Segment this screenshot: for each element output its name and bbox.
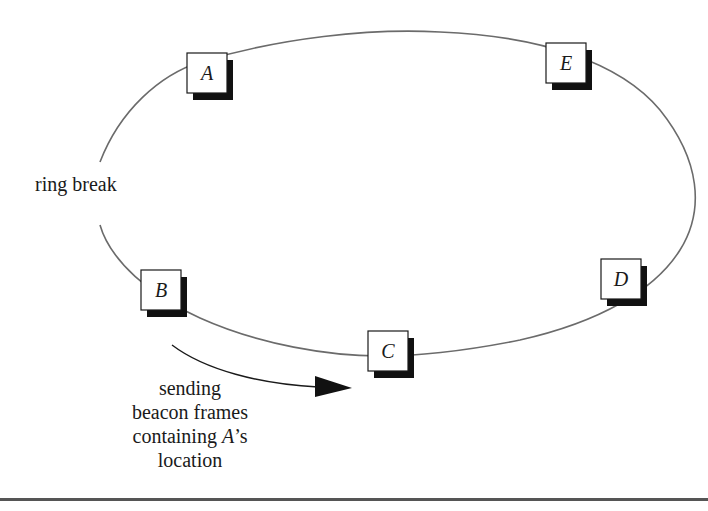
node-label: B [155, 279, 167, 301]
bottom-rule-divider [0, 498, 708, 501]
station-node-e: E [546, 43, 592, 90]
station-node-c: C [368, 331, 414, 378]
beacon-text-node-ref: A [220, 425, 235, 447]
node-label: C [381, 340, 395, 362]
beacon-text-line3: containing A’s [133, 425, 248, 448]
node-label: E [559, 52, 572, 74]
beacon-text-suffix: ’s [234, 425, 248, 447]
beacon-text-prefix: containing [133, 425, 222, 448]
beacon-arrow-head [315, 376, 352, 397]
station-node-b: B [141, 270, 187, 317]
node-label: A [199, 62, 214, 84]
node-label: D [613, 268, 629, 290]
beacon-text-line1: sending [159, 377, 221, 400]
beacon-text-line4: location [158, 449, 222, 471]
beacon-text-line2: beacon frames [132, 401, 248, 423]
station-node-a: A [187, 53, 233, 100]
token-ring-diagram: ring break A E B C D sending beacon fram… [0, 0, 708, 511]
ring-break-label: ring break [35, 173, 117, 196]
station-node-d: D [601, 259, 647, 306]
